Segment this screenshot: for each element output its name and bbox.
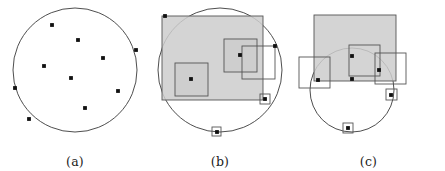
panel-c-point-1 xyxy=(316,78,320,82)
panel-a-point-7 xyxy=(13,86,17,90)
panel-a-point-5 xyxy=(116,89,120,93)
panel-a-point-8 xyxy=(27,117,31,121)
panel-b-point-2 xyxy=(189,77,193,81)
panel-c: (c) xyxy=(292,0,445,171)
panel-a-point-3 xyxy=(42,64,46,68)
panel-c-point-5 xyxy=(346,126,350,130)
panel-a-caption: (a) xyxy=(0,156,150,169)
panel-a-diagram xyxy=(0,0,150,145)
panel-c-point-0 xyxy=(350,54,354,58)
panel-b-point-4 xyxy=(263,97,267,101)
panel-a-point-9 xyxy=(134,48,138,52)
panel-a-point-6 xyxy=(83,106,87,110)
panel-a-point-0 xyxy=(50,23,54,27)
panel-c-diagram xyxy=(292,0,445,145)
panel-a-point-2 xyxy=(101,56,105,60)
panel-a-point-4 xyxy=(69,76,73,80)
panel-a: (a) xyxy=(0,0,150,171)
panel-c-point-4 xyxy=(389,93,393,97)
panel-a-circle xyxy=(13,8,137,132)
panel-c-caption: (c) xyxy=(292,156,445,169)
panel-b-diagram xyxy=(145,0,295,145)
figure-root: (a) (b) (c) xyxy=(0,0,445,171)
panel-b-caption: (b) xyxy=(145,156,295,169)
panel-b: (b) xyxy=(145,0,295,171)
panel-b-point-0 xyxy=(163,14,167,18)
panel-a-point-1 xyxy=(76,38,80,42)
panel-c-point-2 xyxy=(350,77,354,81)
panel-c-box-large-box xyxy=(314,15,396,81)
panel-b-point-5 xyxy=(215,130,219,134)
panel-c-point-3 xyxy=(377,68,381,72)
panel-b-point-3 xyxy=(273,44,277,48)
panel-b-point-1 xyxy=(238,53,242,57)
